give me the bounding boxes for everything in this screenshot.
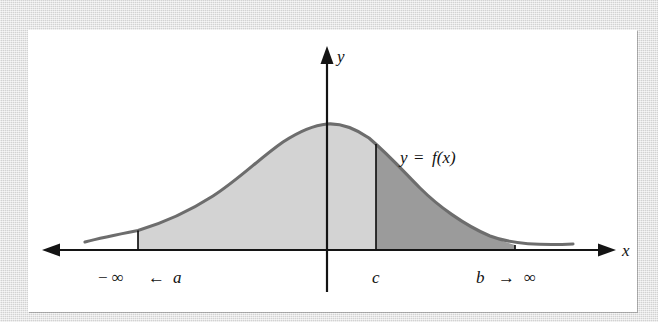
x-axis-right-arrowhead	[598, 244, 616, 257]
label-negative-infinity: − ∞	[98, 268, 124, 287]
label-left-arrow: ←	[148, 268, 165, 287]
plot-svg: y x y = f(x) − ∞ ← a c b → ∞	[28, 30, 637, 312]
function-label-equals: =	[414, 148, 424, 167]
label-point-b: b	[476, 268, 485, 287]
y-axis-label: y	[335, 47, 345, 66]
label-right-arrow: →	[498, 268, 515, 287]
y-axis-arrowhead	[321, 46, 334, 64]
label-point-a: a	[173, 268, 182, 287]
figure-root: y x y = f(x) − ∞ ← a c b → ∞	[0, 0, 658, 322]
plot-panel: y x y = f(x) − ∞ ← a c b → ∞	[28, 30, 637, 312]
label-point-c: c	[372, 268, 380, 287]
region-left-a-to-c	[138, 124, 376, 250]
function-label-y: y	[398, 148, 408, 167]
x-axis-left-arrowhead	[42, 244, 60, 257]
x-axis-label: x	[621, 241, 630, 260]
label-positive-infinity: ∞	[524, 268, 536, 287]
function-label-fx: f(x)	[432, 148, 456, 167]
